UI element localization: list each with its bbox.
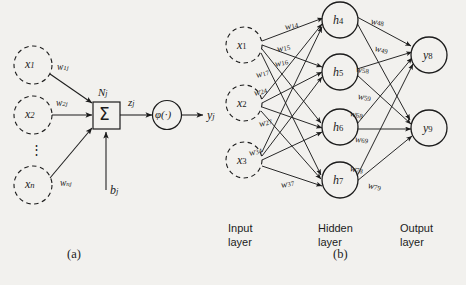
- summation-symbol: Σ: [99, 104, 110, 124]
- hidden-layer-line1: Hidden: [318, 222, 353, 236]
- output-label-yj: yj: [207, 108, 215, 123]
- hidden-label-h4: h4: [333, 13, 343, 28]
- input-label-x1: x1: [25, 57, 35, 72]
- weight-label-w2j: w2j: [56, 98, 68, 108]
- edge-x1-h5: [262, 45, 322, 67]
- hidden-label-h6: h6: [333, 120, 343, 135]
- weight-label-wnj: wnj: [60, 178, 72, 188]
- output-layer-line1: Output: [400, 222, 433, 236]
- weight-label-w1j: w1j: [57, 62, 69, 72]
- panel-a: [14, 46, 203, 204]
- input-layer-line2: layer: [228, 236, 252, 250]
- weight-label-w48: w48: [370, 16, 385, 28]
- weight-label-w69: w69: [354, 134, 368, 145]
- output-label-y8: y8: [423, 48, 433, 63]
- input-label-x2: x2: [25, 107, 35, 122]
- edge-x3-h6: [262, 132, 322, 160]
- input-ellipsis: ⋮: [30, 142, 44, 157]
- input-label-x3: x3: [237, 153, 247, 168]
- net-input-label-zj: zj: [128, 96, 134, 108]
- panel-b-caption: (b): [333, 247, 348, 262]
- panel-b: [226, 2, 447, 198]
- edge-x1-h6: [262, 49, 321, 123]
- edge-h7-y8: [357, 64, 413, 176]
- output-layer-line2: layer: [400, 236, 433, 250]
- edge-xn-to-sum: [50, 128, 92, 178]
- weight-label-w59: w59: [357, 91, 372, 103]
- activation-function-label: φ(·): [155, 108, 171, 120]
- hidden-label-h5: h5: [333, 65, 343, 80]
- neuron-label-Nj: Nj: [98, 86, 108, 98]
- panel-a-caption: (a): [67, 247, 81, 262]
- input-label-xn: xn: [25, 177, 35, 192]
- output-label-y9: y9: [423, 121, 433, 136]
- input-hidden-edges: [261, 18, 323, 186]
- input-label-x1: x1: [237, 38, 247, 53]
- bias-label-bj: bj: [110, 183, 118, 198]
- hidden-label-h7: h7: [333, 173, 343, 188]
- input-layer-label: Inputlayer: [228, 222, 252, 249]
- input-label-x2: x2: [237, 96, 247, 111]
- output-layer-label: Outputlayer: [400, 222, 433, 249]
- hidden-layer-label: Hiddenlayer: [318, 222, 353, 249]
- weight-label-w58: w58: [355, 64, 369, 76]
- input-layer-line1: Input: [228, 222, 252, 236]
